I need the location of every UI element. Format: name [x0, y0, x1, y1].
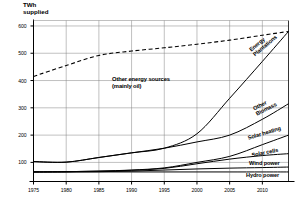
annotation-other-energy-sources: Other energy sources (mainly oil) — [112, 76, 170, 91]
y-tick-300: 300 — [11, 105, 27, 111]
data-curves — [34, 31, 289, 172]
x-tick-1990: 1990 — [120, 187, 144, 193]
x-tick-2000: 2000 — [185, 187, 209, 193]
y-tick-400: 400 — [11, 78, 27, 84]
x-tick-1985: 1985 — [87, 187, 111, 193]
curve-label-wind-power: Wind power — [249, 160, 280, 166]
x-tick-2005: 2005 — [218, 187, 242, 193]
y-tick-600: 600 — [11, 23, 27, 29]
curve-label-hydro-power: Hydro power — [246, 172, 279, 178]
x-tick-1995: 1995 — [152, 187, 176, 193]
chart-root: TWh supplied 100200300400500600 19751980… — [0, 0, 297, 202]
curve-total-supply — [34, 31, 289, 76]
tick-marks — [31, 26, 263, 185]
x-tick-2010: 2010 — [250, 187, 274, 193]
x-tick-1975: 1975 — [22, 187, 46, 193]
y-tick-500: 500 — [11, 50, 27, 56]
x-tick-1980: 1980 — [54, 187, 78, 193]
y-tick-200: 200 — [11, 132, 27, 138]
y-tick-100: 100 — [11, 159, 27, 165]
